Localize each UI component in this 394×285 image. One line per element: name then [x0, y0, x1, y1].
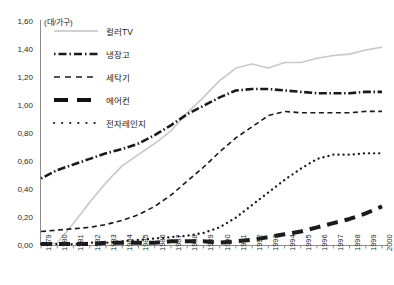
legend-item-1: 냉장고 — [52, 47, 130, 61]
x-axis-tick-label: 1990 — [223, 234, 232, 251]
x-axis-tick-label: 1983 — [109, 234, 118, 251]
y-axis-tick-label: 1,40 — [3, 45, 33, 54]
x-axis-tick-label: 1980 — [60, 234, 69, 251]
legend-label-4: 전자레인지 — [106, 117, 146, 129]
y-axis-tick-label: 0,20 — [3, 213, 33, 222]
x-axis-tick-label: 1995 — [304, 234, 313, 251]
y-axis-tick-label: 1,20 — [3, 73, 33, 82]
x-axis-tick-label: 1981 — [76, 234, 85, 251]
x-axis-tick-label: 1989 — [206, 234, 215, 251]
x-axis-tick-label: 1994 — [288, 234, 297, 251]
y-axis-tick-label: 0,60 — [3, 157, 33, 166]
legend-label-2: 세탁기 — [106, 71, 130, 83]
x-axis-tick-label: 1986 — [158, 234, 167, 251]
x-axis-tick-label: 1997 — [336, 234, 345, 251]
legend-label-0: 컬러TV — [106, 25, 133, 37]
legend-item-2: 세탁기 — [52, 70, 130, 84]
legend-item-3: 에어컨 — [52, 93, 130, 107]
x-axis-tick-label: 1996 — [320, 234, 329, 251]
legend-item-0: 컬러TV — [52, 24, 133, 38]
x-axis-tick-label: 2000 — [385, 234, 394, 251]
legend-swatch-dash-dot — [52, 49, 100, 59]
legend-swatch-solid — [52, 26, 100, 36]
y-axis-tick-label: 1,60 — [3, 17, 33, 26]
x-axis-tick-label: 1982 — [93, 234, 102, 251]
y-axis-tick-label: 0,40 — [3, 185, 33, 194]
legend-swatch-dotted — [52, 118, 100, 128]
x-axis-tick-label: 1999 — [369, 234, 378, 251]
x-axis-tick-label: 1979 — [44, 234, 53, 251]
legend-swatch-thick-dash — [52, 95, 100, 105]
legend-label-1: 냉장고 — [106, 48, 130, 60]
legend-swatch-dashed — [52, 72, 100, 82]
x-axis-tick-label: 1984 — [125, 234, 134, 251]
legend-label-3: 에어컨 — [106, 94, 130, 106]
x-axis-tick-label: 1992 — [255, 234, 264, 251]
y-axis-tick-label: 0,00 — [3, 241, 33, 250]
y-axis-tick-label: 1,00 — [3, 101, 33, 110]
x-axis-tick-label: 1998 — [353, 234, 362, 251]
x-axis-tick-label: 1987 — [174, 234, 183, 251]
x-axis-tick-label: 1985 — [141, 234, 150, 251]
y-axis-tick-label: 0,80 — [3, 129, 33, 138]
x-axis-tick-label: 1988 — [190, 234, 199, 251]
x-axis-tick-label: 1991 — [239, 234, 248, 251]
x-axis-tick-label: 1993 — [271, 234, 280, 251]
legend-item-4: 전자레인지 — [52, 116, 146, 130]
line-chart: (대/가구) 0,000,200,400,600,801,001,201,401… — [0, 0, 394, 285]
